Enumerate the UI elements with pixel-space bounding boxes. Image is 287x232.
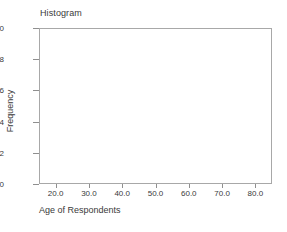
x-axis-tick	[89, 184, 90, 188]
x-axis-tick-label: 40.0	[114, 189, 130, 198]
histogram-figure: Histogram 0246810 Frequency 20.030.040.0…	[0, 0, 287, 232]
x-axis-tick-label: 50.0	[148, 189, 164, 198]
x-axis-tick-label: 30.0	[81, 189, 97, 198]
x-axis-tick	[56, 184, 57, 188]
x-axis-tick	[222, 184, 223, 188]
x-axis-title: Age of Respondents	[39, 205, 219, 215]
x-axis-tick-label: 60.0	[181, 189, 197, 198]
x-axis-tick	[122, 184, 123, 188]
x-axis-tick-label: 80.0	[248, 189, 264, 198]
x-axis-tick	[255, 184, 256, 188]
x-axis-tick-label: 70.0	[214, 189, 230, 198]
x-axis-tick	[189, 184, 190, 188]
x-axis: 20.030.040.050.060.070.080.0	[0, 0, 287, 232]
x-axis-tick-label: 20.0	[48, 189, 64, 198]
x-axis-tick	[156, 184, 157, 188]
